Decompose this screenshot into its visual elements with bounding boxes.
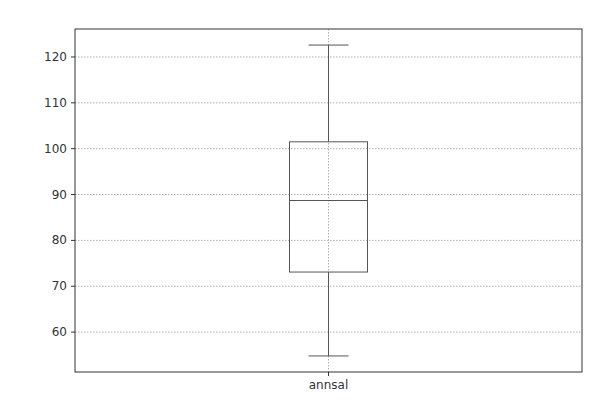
x-axis: annsal [309,372,349,392]
box-series [290,45,368,356]
box-annsal [290,45,368,356]
y-tick-label: 80 [52,233,67,247]
y-tick-label: 120 [44,50,67,64]
y-tick-label: 70 [52,279,67,293]
y-tick-label: 60 [52,325,67,339]
x-tick-label: annsal [309,378,349,392]
y-axis: 60708090100110120 [44,50,75,339]
y-tick-label: 100 [44,142,67,156]
y-tick-label: 90 [52,188,67,202]
y-tick-label: 110 [44,96,67,110]
box-plot-chart: 60708090100110120 annsal [0,0,614,419]
